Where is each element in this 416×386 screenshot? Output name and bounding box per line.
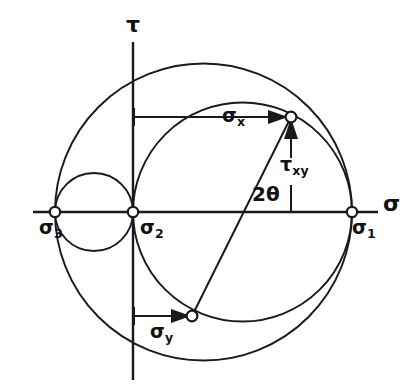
sigma3-label-main: σ [39, 216, 54, 238]
sigma1-label-main: σ [352, 216, 367, 238]
mohrs-circle-figure: τ σ σ3 σ2 σ1 σx σy τxy 2θ [0, 0, 416, 386]
two-theta-label: 2θ [252, 184, 280, 204]
sigma-y-label: σy [150, 322, 173, 341]
tau-xy-label-main: τ [280, 153, 292, 175]
sigma3-label-sub: 3 [54, 226, 63, 241]
sigma2-label-main: σ [140, 216, 155, 238]
sigma-y-label-main: σ [150, 320, 165, 342]
tau-axis-label: τ [126, 14, 140, 36]
marker-point-x[interactable] [286, 112, 297, 123]
sigma-y-label-sub: y [165, 330, 173, 345]
sigma1-label: σ1 [352, 218, 376, 237]
mohrs-circle-canvas [0, 0, 416, 386]
marker-point-y[interactable] [187, 311, 198, 322]
marker-sigma2[interactable] [128, 207, 138, 217]
sigma2-label-sub: 2 [155, 226, 164, 241]
tau-xy-label-sub: xy [292, 163, 308, 178]
sigma1-label-sub: 1 [367, 226, 376, 241]
sigma-axis-label: σ [383, 193, 400, 215]
tau-xy-label: τxy [280, 155, 309, 174]
sigma-x-label: σx [222, 106, 245, 125]
stress-state-diameter-chord [192, 117, 291, 316]
sigma2-label: σ2 [140, 218, 164, 237]
sigma-x-label-sub: x [237, 114, 245, 129]
sigma-x-label-main: σ [222, 104, 237, 126]
sigma3-label: σ3 [39, 218, 63, 237]
